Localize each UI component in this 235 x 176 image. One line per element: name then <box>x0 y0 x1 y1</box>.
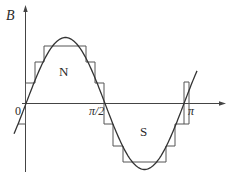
tick-pi-label: π <box>188 104 195 118</box>
y-axis-arrow-icon <box>23 5 27 12</box>
south-pole-label: S <box>140 124 147 139</box>
x-axis-arrow-icon <box>219 101 226 105</box>
flux-density-diagram: B 0 π/2 π N S <box>0 0 235 176</box>
axis-y-label: B <box>6 8 15 23</box>
origin-label: 0 <box>15 104 21 118</box>
north-pole-label: N <box>59 64 69 79</box>
tick-half-pi-label: π/2 <box>89 104 104 118</box>
